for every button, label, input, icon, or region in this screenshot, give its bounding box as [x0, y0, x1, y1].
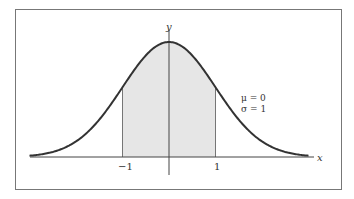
sigma-annotation: σ = 1 — [241, 104, 266, 114]
tick-label-minus1: −1 — [118, 161, 133, 172]
tick-label-plus1: 1 — [214, 161, 220, 172]
normal-distribution-chart: y x −1 1 μ = 0 σ = 1 — [0, 0, 354, 199]
x-axis-label: x — [317, 152, 323, 163]
mu-annotation: μ = 0 — [241, 93, 266, 103]
y-axis-label: y — [165, 21, 172, 32]
